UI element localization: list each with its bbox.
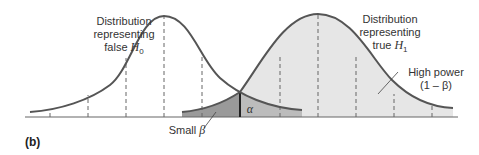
h0-symbol: H	[131, 40, 140, 54]
h0-label-line3: false H0	[72, 41, 176, 58]
alpha-label: α	[244, 103, 256, 116]
h0-subscript: 0	[139, 47, 143, 56]
beta-region	[182, 92, 240, 117]
power-diagram: Distribution representing false H0 Distr…	[0, 0, 479, 155]
beta-label-prefix: Small	[169, 124, 200, 136]
power-label-line1: High power	[396, 66, 476, 79]
beta-label: Small β	[162, 124, 212, 137]
h1-label-line2: representing	[340, 26, 440, 39]
h0-label: Distribution representing false H0	[72, 15, 176, 58]
alpha-symbol: α	[247, 102, 253, 116]
h0-label-line2: representing	[72, 28, 176, 41]
power-label: High power (1 – β)	[396, 66, 476, 92]
power-label-line2: (1 – β)	[396, 79, 476, 92]
h1-symbol: H	[394, 38, 403, 52]
h1-label-line1: Distribution	[340, 13, 440, 26]
h1-subscript: 1	[403, 45, 407, 54]
beta-symbol: β	[199, 123, 205, 137]
h1-label-line3: true H1	[340, 39, 440, 56]
h1-label-prefix: true	[372, 39, 394, 51]
h1-label: Distribution representing true H1	[340, 13, 440, 56]
h0-label-prefix: false	[104, 41, 130, 53]
h0-label-line1: Distribution	[72, 15, 176, 28]
panel-label: (b)	[25, 135, 40, 149]
